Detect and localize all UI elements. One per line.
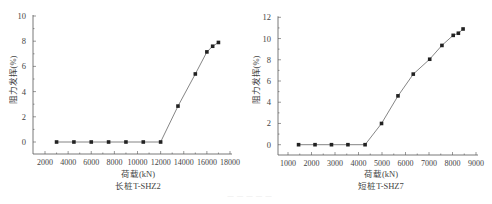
data-point-marker: [89, 140, 93, 144]
data-point-marker: [330, 143, 334, 147]
x-tick-label: 8000: [445, 159, 461, 168]
data-series: [297, 27, 465, 146]
x-axis-label: 荷载(kN): [121, 169, 155, 179]
y-tick-label: 10: [263, 34, 272, 44]
x-tick-label: 2000: [304, 159, 320, 168]
x-tick-label: 5000: [374, 159, 390, 168]
y-axis: 0246810: [18, 11, 37, 154]
data-point-marker: [461, 27, 465, 31]
x-tick-label: 4000: [60, 158, 76, 167]
x-tick-label: 4000: [351, 159, 367, 168]
data-point-marker: [457, 31, 461, 35]
y-tick-label: 8: [267, 55, 271, 65]
x-axis: 100020003000400050006000700080009000: [278, 152, 484, 168]
data-point-marker: [411, 72, 415, 76]
x-tick-label: 12000: [151, 158, 171, 167]
x-tick-label: 10000: [128, 158, 148, 167]
x-tick-label: 3000: [327, 159, 343, 168]
y-tick-label: 0: [267, 140, 271, 150]
figure-caption-faint: — — — — —: [175, 193, 325, 201]
x-tick-label: 18000: [220, 158, 240, 167]
y-tick-label: 4: [267, 97, 272, 107]
chart-long-pile-svg: 0246810 20004000600080001000012000140001…: [0, 0, 246, 190]
data-point-marker: [141, 140, 145, 144]
x-tick-label: 6000: [398, 159, 414, 168]
data-point-marker: [380, 122, 384, 126]
data-point-marker: [194, 72, 198, 76]
x-tick-label: 9000: [468, 159, 484, 168]
data-point-marker: [211, 44, 215, 48]
data-point-marker: [451, 34, 455, 38]
x-tick-label: 6000: [83, 158, 99, 167]
data-point-marker: [55, 140, 59, 144]
data-point-marker: [205, 50, 209, 54]
series-line: [299, 29, 464, 145]
x-tick-label: 7000: [421, 159, 437, 168]
chart-title: 短桩T-SHZ7: [358, 181, 404, 190]
data-series: [55, 41, 220, 144]
data-point-marker: [297, 143, 301, 147]
data-point-marker: [428, 57, 432, 61]
y-axis-label: 阻力发挥(%): [251, 55, 261, 104]
data-point-marker: [217, 41, 221, 45]
y-tick-label: 10: [18, 11, 27, 21]
data-point-marker: [363, 143, 367, 147]
chart-long-pile: 0246810 20004000600080001000012000140001…: [0, 0, 246, 190]
data-point-marker: [159, 140, 163, 144]
y-tick-label: 6: [267, 76, 271, 86]
y-tick-label: 6: [22, 61, 26, 71]
data-point-marker: [176, 104, 180, 108]
y-tick-label: 2: [267, 118, 271, 128]
data-point-marker: [313, 143, 317, 147]
y-tick-label: 4: [22, 87, 27, 97]
chart-short-pile: 024681012 100020003000400050006000700080…: [246, 0, 492, 190]
y-tick-label: 8: [22, 36, 26, 46]
y-axis-label: 阻力发挥(%): [8, 55, 18, 104]
x-tick-label: 2000: [37, 158, 53, 167]
chart-short-pile-svg: 024681012 100020003000400050006000700080…: [246, 0, 492, 190]
y-tick-label: 12: [263, 12, 272, 22]
x-tick-label: 16000: [197, 158, 217, 167]
y-tick-label: 0: [22, 137, 26, 147]
data-point-marker: [124, 140, 128, 144]
chart-title: 长桩T-SHZ2: [115, 181, 161, 190]
y-tick-label: 2: [22, 112, 26, 122]
data-point-marker: [346, 143, 350, 147]
y-axis: 024681012: [263, 12, 282, 155]
x-axis-label: 荷载(kN): [364, 169, 398, 179]
data-point-marker: [72, 140, 76, 144]
x-tick-label: 8000: [106, 158, 122, 167]
x-tick-label: 1000: [280, 159, 296, 168]
data-point-marker: [396, 94, 400, 98]
x-tick-label: 14000: [174, 158, 194, 167]
series-line: [57, 43, 219, 143]
data-point-marker: [440, 44, 444, 48]
x-axis: 2000400060008000100001200014000160001800…: [33, 151, 240, 167]
data-point-marker: [107, 140, 111, 144]
